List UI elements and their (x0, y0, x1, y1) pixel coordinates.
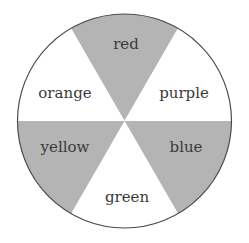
label-yellow: yellow (40, 138, 90, 156)
color-wheel: red purple blue green yellow orange (0, 0, 249, 243)
label-green: green (105, 188, 150, 206)
label-purple: purple (159, 84, 209, 102)
label-orange: orange (38, 84, 91, 102)
label-red: red (113, 35, 139, 53)
label-blue: blue (170, 138, 203, 156)
